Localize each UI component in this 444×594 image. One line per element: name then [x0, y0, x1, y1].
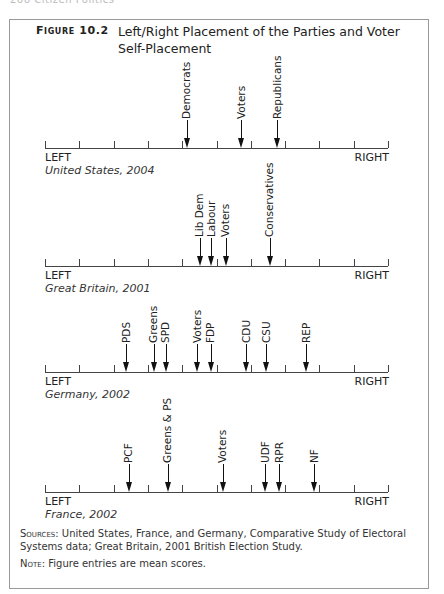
marker-stem: [154, 344, 155, 364]
axis-tick: [217, 259, 218, 266]
marker-label: UDF: [260, 441, 271, 463]
arrow-down-icon: [311, 482, 317, 492]
axis-tick: [251, 365, 252, 372]
sources-note: Sources: United States, France, and Germ…: [20, 527, 420, 553]
marker-stem: [126, 344, 127, 364]
axis-tick: [148, 485, 149, 492]
marker-label: CSU: [261, 321, 272, 343]
axis-tick: [45, 485, 46, 492]
marker-stem: [265, 464, 266, 484]
marker-stem: [187, 120, 188, 140]
marker-stem: [279, 464, 280, 484]
marker-stem: [226, 238, 227, 258]
marker-label: NF: [309, 449, 320, 463]
axis-tick: [217, 141, 218, 148]
axis-line: [45, 372, 388, 373]
panel-caption: United States, 2004: [45, 164, 154, 177]
figure-notes: Sources: United States, France, and Germ…: [20, 527, 420, 574]
axis-tick: [79, 485, 80, 492]
figure-title: Left/Right Placement of the Parties and …: [118, 23, 418, 57]
marker-stem: [223, 464, 224, 484]
sources-text: United States, France, and Germany, Comp…: [20, 528, 406, 552]
arrow-down-icon: [194, 362, 200, 372]
arrow-down-icon: [126, 482, 132, 492]
axis-tick: [388, 259, 389, 266]
marker-stem: [246, 344, 247, 364]
note-text: Figure entries are mean scores.: [48, 558, 206, 569]
arrow-down-icon: [303, 362, 309, 372]
marker-label: Voters: [236, 86, 247, 119]
axis-tick: [217, 365, 218, 372]
marker-label: Labour: [206, 201, 217, 237]
arrow-down-icon: [263, 362, 269, 372]
axis-label-right: RIGHT: [355, 375, 389, 388]
marker-stem: [197, 344, 198, 364]
marker-label: Greens: [148, 306, 159, 343]
axis-line: [45, 148, 388, 149]
arrow-down-icon: [165, 482, 171, 492]
axis-tick: [79, 259, 80, 266]
axis-label-left: LEFT: [45, 269, 71, 282]
panel-caption: France, 2002: [45, 508, 117, 521]
axis-tick: [285, 485, 286, 492]
axis-tick: [285, 365, 286, 372]
axis-tick: [148, 141, 149, 148]
arrow-down-icon: [274, 138, 280, 148]
axis-tick: [45, 259, 46, 266]
marker-stem: [166, 344, 167, 364]
axis-tick: [285, 141, 286, 148]
arrow-down-icon: [238, 138, 244, 148]
note-label: Note:: [20, 558, 45, 569]
marker-label: Voters: [217, 430, 228, 463]
marker-label: PCF: [123, 443, 134, 463]
axis-tick: [114, 259, 115, 266]
marker-stem: [211, 344, 212, 364]
marker-stem: [129, 464, 130, 484]
axis-tick: [319, 141, 320, 148]
running-head: 266 Citizen Politics: [10, 0, 114, 5]
axis-tick: [251, 485, 252, 492]
axis-line: [45, 266, 388, 267]
axis-tick: [148, 365, 149, 372]
marker-label: Democrats: [181, 62, 192, 119]
arrow-down-icon: [208, 362, 214, 372]
arrow-down-icon: [208, 256, 214, 266]
marker-stem: [314, 464, 315, 484]
marker-stem: [200, 238, 201, 258]
axis-tick: [182, 259, 183, 266]
axis-tick: [319, 485, 320, 492]
marker-label: Republicans: [272, 56, 283, 119]
axis-label-right: RIGHT: [355, 269, 389, 282]
marker-label: CDU: [241, 320, 252, 343]
arrow-down-icon: [243, 362, 249, 372]
marker-label: Greens & PS: [162, 398, 173, 463]
axis-tick: [319, 365, 320, 372]
axis-tick: [354, 365, 355, 372]
axis-tick: [114, 485, 115, 492]
arrow-down-icon: [262, 482, 268, 492]
axis-tick: [182, 365, 183, 372]
axis-tick: [354, 259, 355, 266]
axis-tick: [148, 259, 149, 266]
marker-label: Lib Dem: [194, 193, 205, 237]
marker-label: REP: [301, 323, 312, 343]
axis-tick: [285, 259, 286, 266]
axis-tick: [354, 141, 355, 148]
axis-tick: [354, 485, 355, 492]
arrow-down-icon: [276, 482, 282, 492]
marker-stem: [266, 344, 267, 364]
axis-tick: [114, 141, 115, 148]
axis-tick: [45, 365, 46, 372]
axis-line: [45, 492, 388, 493]
axis-label-left: LEFT: [45, 495, 71, 508]
axis-tick: [217, 485, 218, 492]
axis-label-right: RIGHT: [355, 495, 389, 508]
axis-label-right: RIGHT: [355, 151, 389, 164]
arrow-down-icon: [223, 256, 229, 266]
arrow-down-icon: [151, 362, 157, 372]
axis-tick: [79, 365, 80, 372]
marker-label: PDS: [121, 322, 132, 343]
marker-label: SPD: [160, 322, 171, 343]
marker-stem: [168, 464, 169, 484]
marker-stem: [270, 238, 271, 258]
